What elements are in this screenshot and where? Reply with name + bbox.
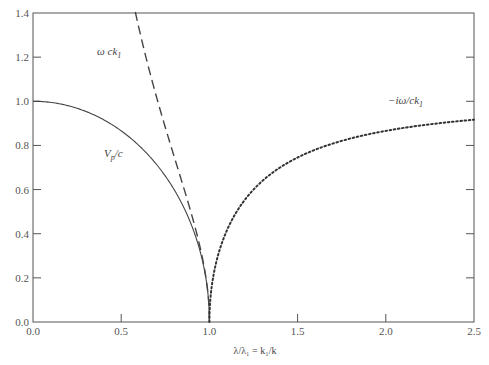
y-tick-label: 0.6 [15,184,29,196]
y-tick-label: 0.8 [15,139,29,151]
y-tick-label: 0.4 [15,228,29,240]
x-tick-label: 1.0 [203,325,217,337]
dashed-curve [135,12,209,322]
plot-frame [33,13,474,322]
dotted-curve [209,120,474,322]
solid-curve [33,101,209,322]
y-tick-label: 0.0 [15,316,29,328]
x-tick-label: 2.5 [467,325,481,337]
dashed-curve-label: ω ck1 [97,45,121,60]
x-axis-title: λ/λ₁ = k₁/k [234,345,277,356]
y-tick-label: 0.2 [15,272,29,284]
curves [33,12,474,322]
y-tick-label: 1.4 [15,7,29,19]
y-axis-ticks: 0.00.20.40.60.81.01.21.4 [15,7,474,328]
x-tick-label: 2.0 [379,325,393,337]
y-tick-label: 1.0 [15,95,29,107]
x-tick-label: 1.5 [291,325,305,337]
dotted-curve-label: −iω/ck1 [388,94,423,109]
y-tick-label: 1.2 [15,51,29,63]
dispersion-chart: 0.00.51.01.52.02.5 0.00.20.40.60.81.01.2… [0,0,489,365]
x-tick-label: 0.5 [114,325,128,337]
x-axis-ticks: 0.00.51.01.52.02.5 [26,314,481,337]
solid-curve-label: Vp/c [104,147,123,162]
